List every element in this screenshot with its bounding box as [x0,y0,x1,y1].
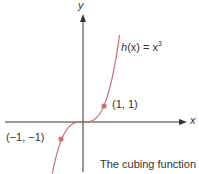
y-axis-arrow-icon [80,14,86,22]
point-1-1 [101,103,106,108]
x-axis-arrow-icon [179,119,187,125]
y-axis-label: y [78,0,84,11]
cubic-curve [52,35,119,173]
chart-caption: The cubing function [100,158,196,170]
function-body: (x) = x [127,41,158,53]
function-exponent: 3 [158,40,162,47]
point-label-1-1: (1, 1) [112,98,138,110]
point-label-neg1-neg1: (−1, −1) [6,131,45,143]
point-neg1-neg1 [58,136,63,141]
chart-canvas [0,0,199,174]
x-axis-label: x [190,114,196,126]
function-label: h(x) = x3 [121,40,162,53]
